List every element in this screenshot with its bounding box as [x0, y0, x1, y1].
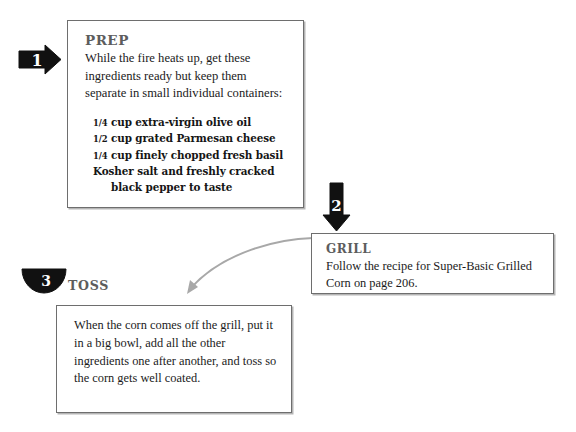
ingredient-item: Kosher salt and freshly cracked: [85, 163, 289, 179]
step-2-grill-box: GRILL Follow the recipe for Super-Basic …: [311, 233, 554, 294]
ingredient-text: cup finely chopped fresh basil: [111, 149, 283, 161]
step-1-prep-box: PREP While the fire heats up, get these …: [67, 20, 304, 208]
ingredient-fraction: 1/4: [93, 150, 107, 160]
step-1-marker-right-arrow-icon: 1: [18, 44, 62, 75]
ingredient-text: Kosher salt and freshly cracked: [93, 165, 274, 177]
recipe-flow-diagram: 1 PREP While the fire heats up, get thes…: [0, 0, 576, 432]
step-1-number: 1: [31, 51, 42, 70]
step-2-body: Follow the recipe for Super-Basic Grille…: [326, 258, 543, 293]
ingredient-item: 1/4 cup finely chopped fresh basil: [85, 147, 289, 164]
ingredient-item: 1/2 cup grated Parmesan cheese: [85, 130, 289, 147]
step-2-number: 2: [331, 197, 341, 215]
ingredient-text: black pepper to taste: [111, 181, 232, 193]
ingredient-fraction: 1/2: [93, 134, 107, 144]
step-3-number: 3: [41, 273, 51, 289]
step-1-heading: PREP: [85, 32, 289, 48]
ingredient-list: 1/4 cup extra-virgin olive oil 1/2 cup g…: [85, 114, 289, 196]
ingredient-text: cup extra-virgin olive oil: [111, 116, 251, 128]
step-2-marker-down-arrow-icon: 2: [321, 182, 352, 232]
step-3-heading: TOSS: [68, 278, 109, 293]
ingredient-text: cup grated Parmesan cheese: [111, 132, 276, 144]
connector-arrow-grill-to-toss: [178, 236, 318, 302]
step-3-marker-half-circle-icon: 3: [21, 268, 67, 294]
ingredient-item: 1/4 cup extra-virgin olive oil: [85, 114, 289, 131]
ingredient-fraction: 1/4: [93, 117, 107, 127]
ingredient-item: black pepper to taste: [85, 179, 289, 195]
step-2-heading: GRILL: [326, 242, 543, 257]
step-3-toss-box: When the corn comes off the grill, put i…: [56, 305, 292, 413]
step-3-body: When the corn comes off the grill, put i…: [74, 317, 279, 388]
step-1-body: While the fire heats up, get these ingre…: [85, 50, 289, 103]
